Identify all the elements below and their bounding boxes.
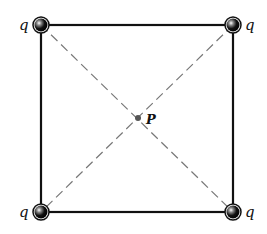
center-point-dot <box>135 115 141 121</box>
charge-ball-icon <box>227 206 240 219</box>
charge-label-top-right: q <box>245 16 255 34</box>
charge-bottom-right <box>225 204 241 220</box>
center-point-label: P <box>145 112 157 127</box>
charge-label-top-left: q <box>19 16 29 34</box>
charge-top-left <box>33 17 49 33</box>
charge-label-bottom-left: q <box>19 203 29 221</box>
charge-ball-icon <box>35 19 48 32</box>
charge-label-bottom-right: q <box>245 203 255 221</box>
charge-top-right <box>225 17 241 33</box>
square-charge-diagram: q q q q P <box>0 0 267 234</box>
charge-ball-icon <box>35 206 48 219</box>
charge-bottom-left <box>33 204 49 220</box>
charge-ball-icon <box>227 19 240 32</box>
